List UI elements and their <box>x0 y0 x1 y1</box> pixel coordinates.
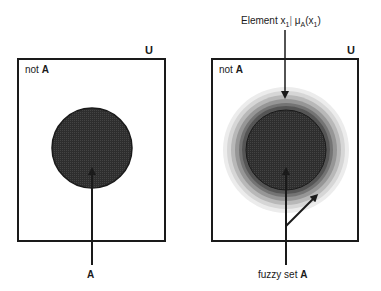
set-name: A <box>87 269 94 280</box>
crisp-set-panel <box>18 59 165 265</box>
crisp-set-label: A <box>87 269 94 281</box>
element-membership-label: Element x1| μA(x1) <box>241 15 321 28</box>
arg-subscript: 1 <box>314 21 318 28</box>
complement-prefix: not <box>219 64 236 75</box>
universe-label-right: U <box>347 44 355 56</box>
mu-subscript: A <box>301 21 306 28</box>
fuzzy-set-name: A <box>300 269 307 280</box>
arg-close: ) <box>317 15 320 26</box>
complement-prefix: not <box>25 64 42 75</box>
element-prefix: Element x <box>241 15 285 26</box>
arg-open: (x <box>305 15 313 26</box>
complement-set-name: A <box>236 64 243 75</box>
element-subscript: 1 <box>285 21 289 28</box>
separator: | <box>289 15 292 26</box>
complement-label-left: not A <box>25 64 49 76</box>
complement-set-name: A <box>42 64 49 75</box>
complement-label-right: not A <box>219 64 243 76</box>
universe-label-left: U <box>145 44 153 56</box>
diagram-canvas <box>0 0 381 291</box>
mu-symbol: μ <box>295 15 301 26</box>
fuzzy-set-label: fuzzy set A <box>258 269 307 281</box>
fuzzy-set-prefix: fuzzy set <box>258 269 300 280</box>
